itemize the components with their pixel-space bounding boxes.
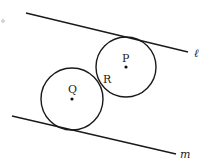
label-q: Q xyxy=(68,83,77,96)
label-line-l: ℓ xyxy=(194,47,199,60)
label-p: P xyxy=(122,52,130,65)
corner-marker xyxy=(2,20,5,23)
center-dot-p xyxy=(124,65,127,68)
label-r: R xyxy=(103,73,112,86)
center-dot-q xyxy=(70,97,73,100)
line-l xyxy=(26,13,188,52)
geometry-diagram: P Q R ℓ m xyxy=(0,0,209,165)
label-line-m: m xyxy=(180,148,190,161)
